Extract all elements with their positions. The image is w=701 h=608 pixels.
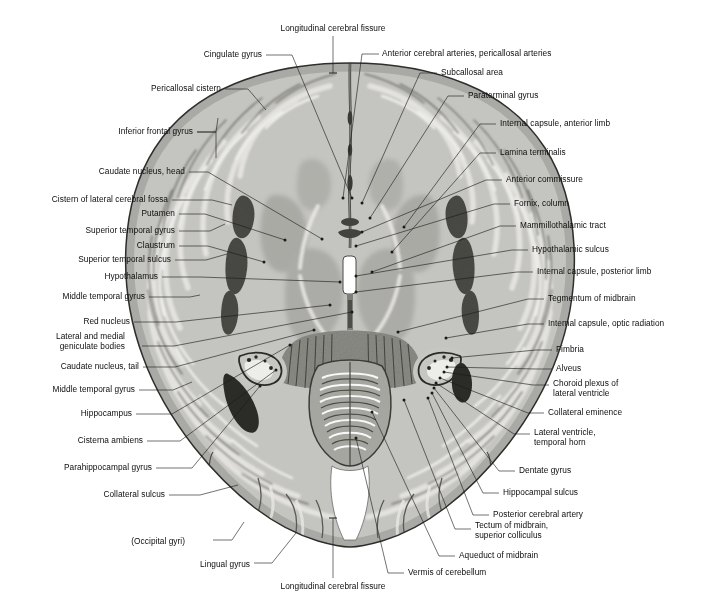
label-cingulate-gyrus: Cingulate gyrus — [204, 49, 262, 59]
label-collateral-eminence: Collateral eminence — [548, 407, 622, 417]
label-hypothalamic-sulcus: Hypothalamic sulcus — [532, 244, 609, 254]
label-fornix-column: Fornix, column — [514, 198, 569, 208]
label-mammillothalamic-tract: Mammillothalamic tract — [520, 220, 606, 230]
label-anterior-commissure: Anterior commissure — [506, 174, 583, 184]
label-vermis-of-cerebellum: Vermis of cerebellum — [408, 567, 486, 577]
label-putamen: Putamen — [142, 208, 176, 218]
label-long-fissure-bottom: Longitudinal cerebral fissure — [281, 581, 386, 591]
label-occipital-gyri: (Occipital gyri) — [131, 536, 185, 546]
label-lamina-terminalis: Lamina terminalis — [500, 147, 566, 157]
label-parahippocampal-gyrus: Parahippocampal gyrus — [64, 462, 152, 472]
label-middle-temporal-gyrus-1: Middle temporal gyrus — [63, 291, 146, 301]
label-claustrum: Claustrum — [137, 240, 175, 250]
label-superior-temporal-gyrus: Superior temporal gyrus — [86, 225, 176, 235]
label-fimbria: Fimbria — [556, 344, 584, 354]
label-choroid-plexus: Choroid plexus of lateral ventricle — [553, 378, 618, 398]
label-lateral-medial-geniculate: Lateral and medial geniculate bodies — [56, 331, 125, 351]
label-cistern-lateral-cerebral-fossa: Cistern of lateral cerebral fossa — [52, 194, 168, 204]
label-middle-temporal-gyrus-2: Middle temporal gyrus — [53, 384, 136, 394]
label-long-fissure-top: Longitudinal cerebral fissure — [281, 23, 386, 33]
label-collateral-sulcus: Collateral sulcus — [103, 489, 165, 499]
label-caudate-nucleus-tail: Caudate nucleus, tail — [61, 361, 139, 371]
anatomical-plate: Cingulate gyrusPericallosal cisternInfer… — [0, 0, 701, 608]
label-hippocampal-sulcus: Hippocampal sulcus — [503, 487, 578, 497]
label-superior-temporal-sulcus: Superior temporal sulcus — [78, 254, 171, 264]
label-subcallosal-area: Subcallosal area — [441, 67, 503, 77]
label-hypothalamus: Hypothalamus — [104, 271, 158, 281]
label-aqueduct-of-midbrain: Aqueduct of midbrain — [459, 550, 538, 560]
label-anterior-cerebral-arteries: Anterior cerebral arteries, pericallosal… — [382, 48, 551, 58]
label-dentate-gyrus: Dentate gyrus — [519, 465, 571, 475]
leader-lines — [0, 0, 701, 608]
label-posterior-cerebral-artery: Posterior cerebral artery — [493, 509, 583, 519]
label-lateral-ventricle-temporal: Lateral ventricle, temporal horn — [534, 427, 596, 447]
label-pericallosal-cistern: Pericallosal cistern — [151, 83, 221, 93]
label-alveus: Alveus — [556, 363, 581, 373]
label-cisterna-ambiens: Cisterna ambiens — [78, 435, 143, 445]
label-red-nucleus: Red nucleus — [83, 316, 130, 326]
label-caudate-nucleus-head: Caudate nucleus, head — [99, 166, 185, 176]
label-tegmentum-of-midbrain: Tegmentum of midbrain — [548, 293, 636, 303]
label-internal-capsule-optic: Internal capsule, optic radiation — [548, 318, 664, 328]
label-lingual-gyrus: Lingual gyrus — [200, 559, 250, 569]
label-inferior-frontal-gyrus: Inferior frontal gyrus — [118, 126, 193, 136]
label-paraterminal-gyrus: Paraterminal gyrus — [468, 90, 538, 100]
label-internal-capsule-posterior: Internal capsule, posterior limb — [537, 266, 651, 276]
label-tectum-of-midbrain: Tectum of midbrain, superior colliculus — [475, 520, 548, 540]
label-internal-capsule-anterior: Internal capsule, anterior limb — [500, 118, 610, 128]
label-hippocampus: Hippocampus — [81, 408, 132, 418]
